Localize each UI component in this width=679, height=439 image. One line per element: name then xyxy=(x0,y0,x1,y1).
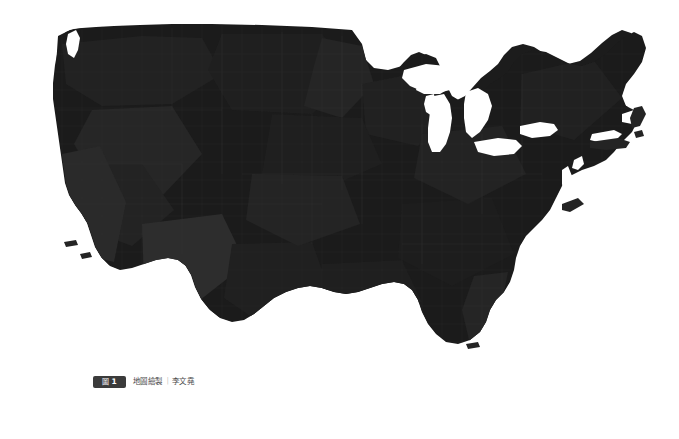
caption-credit-name: 李文堯 xyxy=(172,377,194,386)
gulf-coast-notch xyxy=(346,302,374,316)
outer-banks xyxy=(562,198,584,212)
map-svg xyxy=(22,14,662,366)
figure-badge-word: 圖 xyxy=(102,379,109,386)
us-county-choropleth-map xyxy=(22,14,662,366)
marthas-vineyard xyxy=(634,130,644,138)
caption-credit: 地圖繪製｜李文堯 xyxy=(133,378,194,386)
florida-keys xyxy=(466,342,480,349)
figure-number-badge: 圖 1 xyxy=(93,376,126,388)
figure-badge-number: 1 xyxy=(111,378,117,386)
figure-container: 圖 1 地圖繪製｜李文堯 xyxy=(0,0,679,439)
caption-credit-label: 地圖繪製 xyxy=(133,377,163,386)
channel-island-santa-cruz xyxy=(64,240,78,247)
channel-island-santa-catalina xyxy=(80,252,92,259)
san-francisco-bay xyxy=(55,200,64,214)
figure-caption: 圖 1 地圖繪製｜李文堯 xyxy=(93,375,194,389)
caption-separator: ｜ xyxy=(163,377,172,386)
